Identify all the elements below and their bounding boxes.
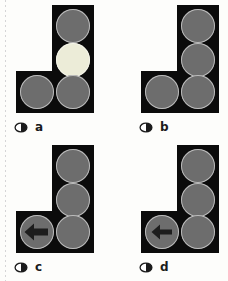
signal-housing-a [16, 5, 94, 113]
signal-housing-c [16, 145, 94, 253]
lamp-left-d [145, 215, 179, 249]
panel-a: a [0, 0, 114, 140]
lamp-bottom-d [181, 215, 215, 249]
signal-housing-b [141, 5, 219, 113]
left-arrow-icon [145, 215, 179, 249]
open-ellipse-bullet-icon [139, 122, 153, 133]
caption-label-a: a [35, 121, 43, 133]
lamp-top-a [56, 9, 90, 43]
lamp-bottom-a [56, 75, 90, 109]
lamp-left-a [20, 75, 54, 109]
figure-panel-grid: a b [0, 0, 228, 281]
signal-housing-d [141, 145, 219, 253]
caption-c: c [14, 259, 42, 275]
caption-label-c: c [35, 261, 42, 273]
left-arrow-icon [20, 215, 54, 249]
open-ellipse-bullet-icon [14, 122, 28, 133]
lamp-top-c [56, 149, 90, 183]
lamp-bottom-b [181, 75, 215, 109]
caption-label-b: b [160, 121, 169, 133]
caption-b: b [139, 119, 169, 135]
panel-c: c [0, 140, 114, 280]
caption-d: d [139, 259, 169, 275]
lamp-mid-b [181, 43, 215, 77]
lamp-left-c [20, 215, 54, 249]
open-ellipse-bullet-icon [14, 262, 28, 273]
lamp-mid-c [56, 183, 90, 217]
lamp-mid-d [181, 183, 215, 217]
lamp-top-d [181, 149, 215, 183]
lamp-left-b [145, 75, 179, 109]
lamp-mid-a [56, 43, 90, 77]
panel-d: d [125, 140, 228, 280]
open-ellipse-bullet-icon [139, 262, 153, 273]
lamp-bottom-c [56, 215, 90, 249]
caption-a: a [14, 119, 43, 135]
caption-label-d: d [160, 261, 169, 273]
panel-b: b [125, 0, 228, 140]
lamp-top-b [181, 9, 215, 43]
